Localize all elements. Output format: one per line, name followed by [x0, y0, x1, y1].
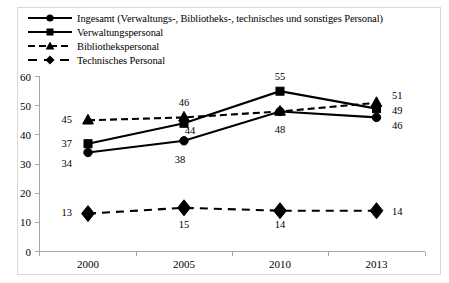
- x-tick-label-2005: 2005: [173, 258, 196, 270]
- series-technisches-personal: [82, 200, 383, 222]
- chart-container: Ingesamt (Verwaltungs-, Bibliotheks-, te…: [0, 0, 449, 283]
- data-label-ingesamt-2005: 38: [175, 154, 186, 165]
- x-tick-label-2000: 2000: [77, 258, 100, 270]
- y-tick-label-30: 30: [20, 158, 32, 170]
- y-tick-label-40: 40: [20, 129, 32, 141]
- y-tick-label-20: 20: [20, 187, 32, 199]
- x-tick-label-2010: 2010: [269, 258, 292, 270]
- series-verwaltungspersonal: [84, 87, 381, 148]
- data-label-technisch-2010: 14: [275, 219, 286, 230]
- data-label-ingesamt-2000: 34: [62, 158, 73, 169]
- y-axis-ticks: [35, 77, 40, 252]
- data-label-verwaltung-2010: 55: [275, 71, 286, 82]
- y-tick-label-10: 10: [20, 216, 32, 228]
- data-label-bibliothek-2013: 51: [392, 90, 403, 101]
- y-tick-label-0: 0: [26, 246, 32, 258]
- data-label-bibliothek-2005: 46: [179, 97, 190, 108]
- y-tick-label-50: 50: [20, 100, 32, 112]
- data-label-ingesamt-2013: 46: [392, 120, 403, 131]
- x-axis-ticks: [40, 252, 426, 257]
- data-label-verwaltung-2000: 37: [62, 138, 73, 149]
- data-label-technisch-2013: 14: [392, 206, 403, 217]
- y-tick-label-60: 60: [20, 71, 32, 83]
- x-tick-label-2013: 2013: [366, 258, 389, 270]
- data-label-bibliothek-2000: 45: [62, 114, 73, 125]
- data-label-verwaltung-2005: 44: [185, 125, 196, 136]
- data-label-technisch-2000: 13: [62, 207, 73, 218]
- data-label-technisch-2005: 15: [179, 219, 190, 230]
- chart-plot-area: 60 50 40 30 20 10 0 2000 2005 2010 2013: [0, 0, 449, 283]
- data-label-ingesamt-2010: 48: [275, 124, 286, 135]
- data-label-verwaltung-2013: 49: [392, 105, 403, 116]
